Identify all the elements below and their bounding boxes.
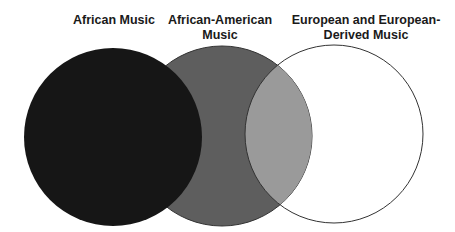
circle-african-music (24, 48, 202, 226)
venn-diagram (0, 0, 455, 232)
